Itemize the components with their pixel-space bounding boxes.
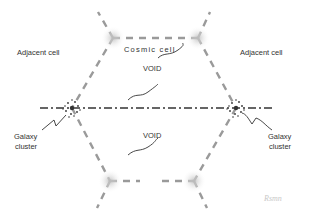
cosmic-cell-label: Cosmic cell [124, 45, 176, 54]
void-bottom-label: VOID [143, 131, 162, 140]
galaxy-cluster-right-label-line1: Galaxy [268, 132, 292, 141]
galaxy-cluster-right [226, 99, 245, 118]
node-top-right [186, 26, 210, 50]
galaxy-cluster-left-label-line1: Galaxy [14, 132, 38, 141]
adjacent-cell-left-label: Adjacent cell [17, 48, 60, 57]
cluster-left-leader [42, 115, 66, 130]
adjacent-cell-right-label: Adjacent cell [240, 48, 283, 57]
node-bottom-right [182, 169, 206, 193]
node-bottom-left [98, 169, 122, 193]
void-top-label: VOID [143, 64, 162, 73]
cosmic-cell-diagram: Adjacent cell Adjacent cell Cosmic cell … [0, 0, 310, 220]
cluster-right-leader [242, 113, 272, 130]
node-top-left [101, 26, 125, 50]
void-top-leader [128, 84, 158, 100]
galaxy-cluster-right-label-line2: cluster [269, 142, 292, 151]
watermark-logo: Rsmn [263, 194, 282, 203]
void-bottom-leader [128, 138, 158, 155]
galaxy-cluster-left-label-line2: cluster [15, 142, 38, 151]
